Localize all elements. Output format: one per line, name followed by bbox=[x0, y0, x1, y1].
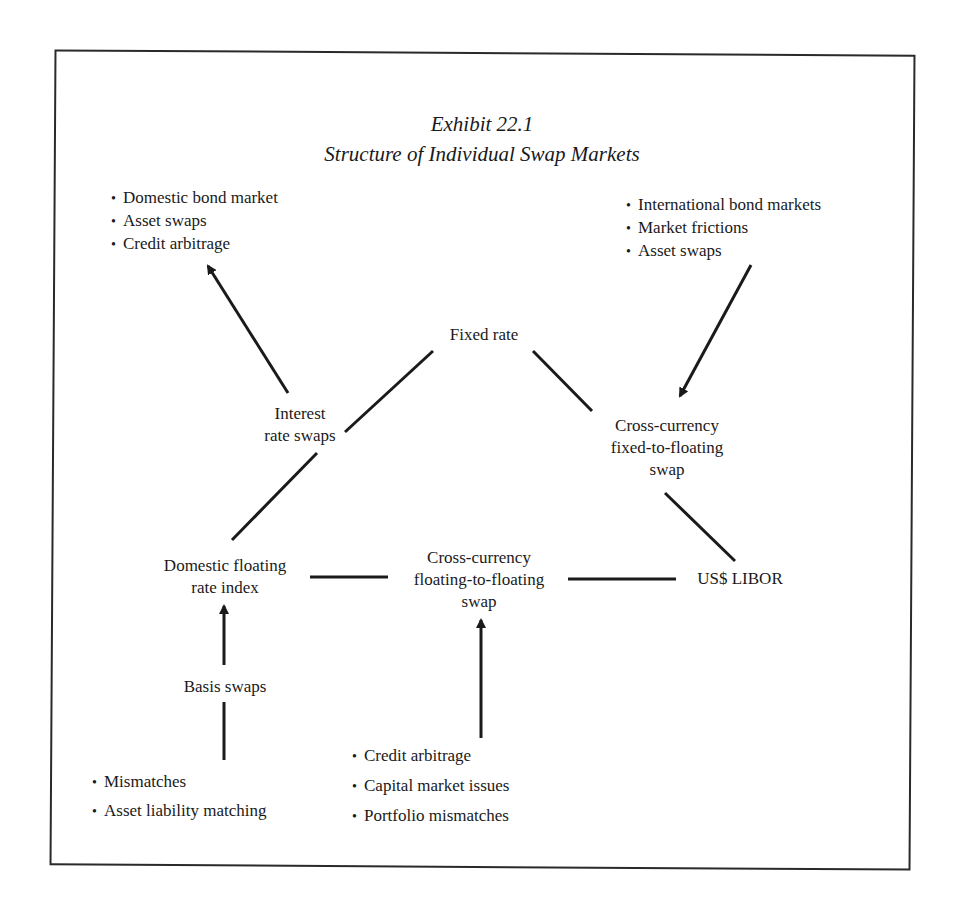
node-basis-swaps: Basis swaps bbox=[170, 676, 280, 698]
bullet-item: Credit arbitrage bbox=[111, 233, 278, 256]
bullet-item: Asset swaps bbox=[111, 210, 278, 233]
arrow-intl-to-crossfixed bbox=[680, 265, 751, 396]
bullets-top-right: International bond markets Market fricti… bbox=[626, 194, 821, 263]
bullet-item: Asset swaps bbox=[626, 240, 821, 263]
bullets-top-left: Domestic bond market Asset swaps Credit … bbox=[111, 187, 278, 256]
node-cross-currency-fixed-to-floating: Cross-currency fixed-to-floating swap bbox=[592, 415, 742, 481]
edge-crossfixed-libor bbox=[665, 493, 735, 561]
bullet-item: Domestic bond market bbox=[111, 187, 278, 210]
bullets-bottom-left: Mismatches Asset liability matching bbox=[92, 771, 266, 823]
bullet-item: Credit arbitrage bbox=[352, 745, 509, 768]
bullets-bottom-center: Credit arbitrage Capital market issues P… bbox=[352, 745, 509, 828]
bullet-item: International bond markets bbox=[626, 194, 821, 217]
bullet-item: Asset liability matching bbox=[92, 800, 266, 823]
edge-fixed-crossfixed bbox=[533, 351, 592, 411]
node-fixed-rate: Fixed rate bbox=[434, 324, 534, 346]
bullet-item: Mismatches bbox=[92, 771, 266, 794]
bullet-item: Capital market issues bbox=[352, 775, 509, 798]
node-us-libor: US$ LIBOR bbox=[685, 568, 795, 590]
bullet-item: Market frictions bbox=[626, 217, 821, 240]
edge-irs-domestic bbox=[232, 453, 317, 540]
arrow-irs-to-domestic-bonds bbox=[208, 266, 288, 393]
bullet-item: Portfolio mismatches bbox=[352, 805, 509, 828]
node-cross-currency-floating-to-floating: Cross-currency floating-to-floating swap bbox=[390, 547, 568, 613]
node-domestic-floating-rate-index: Domestic floating rate index bbox=[140, 555, 310, 599]
edge-irs-fixed bbox=[345, 351, 433, 432]
node-interest-rate-swaps: Interest rate swaps bbox=[245, 403, 355, 447]
